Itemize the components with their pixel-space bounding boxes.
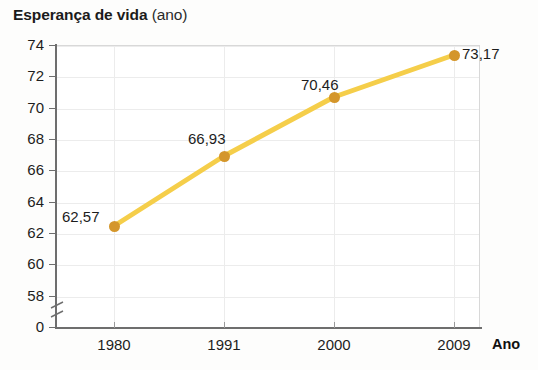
x-axis-tick — [114, 322, 115, 328]
chart-figure: Esperança de vida (ano) 74 72 70 68 66 6… — [0, 0, 538, 370]
x-axis-tick — [454, 322, 455, 328]
y-axis-tick-label: 60 — [27, 255, 44, 272]
x-axis-tick — [334, 322, 335, 328]
y-axis-tick-label: 70 — [27, 99, 44, 116]
y-axis-tick — [49, 139, 56, 140]
y-axis-tick — [49, 233, 56, 234]
data-point-label: 62,57 — [62, 208, 100, 225]
y-axis-tick — [49, 45, 56, 46]
data-point-marker[interactable] — [219, 151, 230, 162]
gridline-horizontal — [57, 297, 479, 298]
gridline-horizontal — [57, 109, 479, 110]
gridline-horizontal — [57, 77, 479, 78]
y-axis-tick — [49, 108, 56, 109]
gridline-vertical — [224, 46, 225, 327]
y-axis-tick — [49, 264, 56, 265]
y-axis-tick — [49, 327, 56, 328]
data-point-marker[interactable] — [329, 92, 340, 103]
data-point-label: 70,46 — [301, 76, 339, 93]
x-axis-line — [55, 327, 482, 329]
x-axis-tick — [224, 322, 225, 328]
gridline-vertical — [114, 46, 115, 327]
y-axis-tick-label: 64 — [27, 193, 44, 210]
x-axis-title: Ano — [492, 336, 520, 352]
y-axis-tick-label: 62 — [27, 224, 44, 241]
y-axis-tick — [49, 76, 56, 77]
gridline-horizontal — [57, 234, 479, 235]
x-axis-tick-label: 1980 — [84, 336, 144, 353]
chart-title: Esperança de vida (ano) — [13, 6, 187, 24]
y-axis-tick-label: 58 — [27, 287, 44, 304]
chart-title-main: Esperança de vida — [13, 6, 147, 23]
data-point-marker[interactable] — [449, 50, 460, 61]
x-axis-tick-label: 1991 — [194, 336, 254, 353]
y-axis-tick-label: 68 — [27, 130, 44, 147]
y-axis-tick — [49, 170, 56, 171]
gridline-horizontal — [57, 265, 479, 266]
gridline-horizontal — [57, 46, 479, 47]
gridline-horizontal — [57, 140, 479, 141]
gridline-vertical — [454, 46, 455, 327]
y-axis-tick-label: 74 — [27, 36, 44, 53]
y-axis-tick-label: 66 — [27, 161, 44, 178]
data-point-marker[interactable] — [109, 221, 120, 232]
chart-title-unit: (ano) — [152, 6, 188, 23]
gridline-horizontal — [57, 203, 479, 204]
x-axis-tick-label: 2000 — [304, 336, 364, 353]
data-point-label: 66,93 — [188, 130, 226, 147]
y-axis-tick — [49, 202, 56, 203]
plot-area — [57, 45, 480, 327]
y-axis-tick-label: 0 — [36, 318, 44, 335]
axis-break-icon — [48, 300, 66, 322]
y-axis-tick — [49, 296, 56, 297]
data-point-label: 73,17 — [462, 45, 500, 62]
y-axis-line — [55, 44, 57, 329]
x-axis-tick-label: 2009 — [424, 336, 484, 353]
gridline-horizontal — [57, 171, 479, 172]
y-axis-tick-label: 72 — [27, 67, 44, 84]
